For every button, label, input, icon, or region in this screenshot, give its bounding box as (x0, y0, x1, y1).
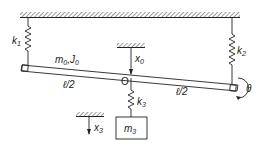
label-theta: θ (246, 83, 252, 94)
label-half-length-right: ℓ/2 (175, 86, 188, 97)
label-m0-j0: m0,J0 (55, 54, 79, 66)
label-k3: k3 (137, 96, 146, 108)
rigid-beam (21, 65, 238, 92)
label-pivot-o: O (121, 76, 129, 87)
label-k2: k2 (237, 45, 246, 57)
spring-k1 (25, 18, 31, 66)
label-k1: k1 (12, 35, 21, 47)
spring-k3 (128, 78, 134, 117)
arrow-down-icon (87, 129, 91, 135)
label-x0: x0 (134, 53, 144, 65)
spring-k2 (229, 18, 235, 86)
ceiling-support (20, 12, 240, 18)
vibration-diagram: k1 k2 m0,J0 ℓ/2 ℓ/2 x0 O k3 m3 x3 (0, 0, 262, 146)
label-x3: x3 (93, 122, 103, 134)
label-half-length-left: ℓ/2 (62, 79, 75, 90)
arrow-down-icon (129, 69, 133, 75)
